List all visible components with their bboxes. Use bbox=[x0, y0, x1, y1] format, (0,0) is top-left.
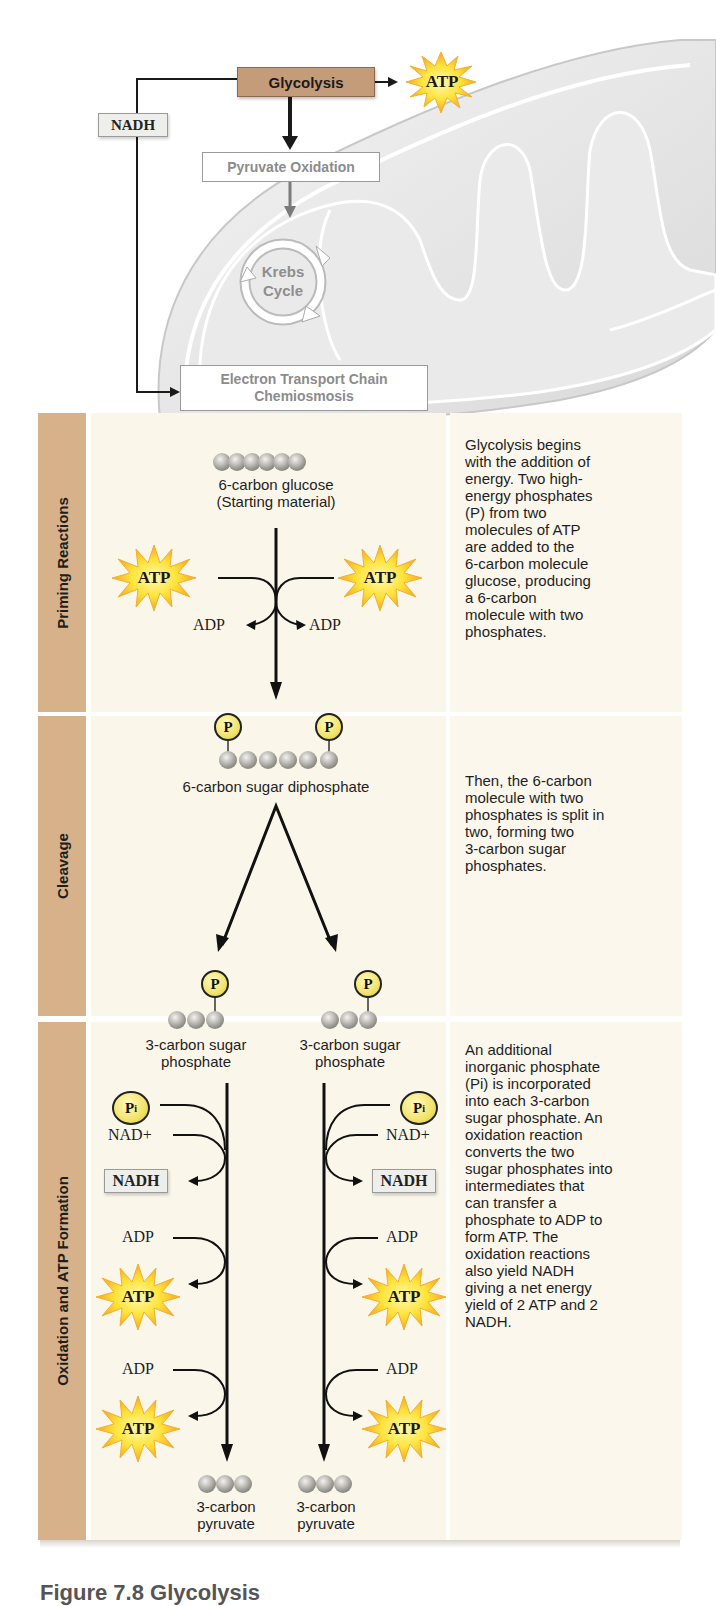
stage-stripe-priming: Priming Reactions bbox=[38, 413, 86, 712]
krebs-label-line1: Krebs bbox=[251, 262, 315, 281]
phosphate-icon: P bbox=[201, 970, 229, 998]
phosphate-icon: P bbox=[214, 713, 242, 741]
diphosphate-label: 6-carbon sugar diphosphate bbox=[140, 778, 412, 795]
krebs-label-line2: Cycle bbox=[251, 281, 315, 300]
label-line2: phosphate bbox=[282, 1053, 418, 1070]
pyruvate-label-left: 3-carbon pyruvate bbox=[180, 1498, 272, 1532]
description-line: phosphates is split in bbox=[465, 806, 680, 823]
description-line: oxidation reactions bbox=[465, 1245, 680, 1262]
description-line: can transfer a bbox=[465, 1194, 680, 1211]
adp-label-right-2: ADP bbox=[386, 1360, 418, 1378]
description-line: intermediates that bbox=[465, 1177, 680, 1194]
description-line: converts the two bbox=[465, 1143, 680, 1160]
adp-label-left: ADP bbox=[193, 616, 225, 634]
glycolysis-box: Glycolysis bbox=[237, 67, 375, 97]
nadh-box-left: NADH bbox=[104, 1169, 168, 1193]
sugar-phosphate-label-right: 3-carbon sugar phosphate bbox=[282, 1036, 418, 1070]
label-line1: 3-carbon sugar bbox=[282, 1036, 418, 1053]
description-line: energy phosphates bbox=[465, 487, 680, 504]
description-line: with the addition of bbox=[465, 453, 680, 470]
description-line: molecule with two bbox=[465, 789, 680, 806]
oxidation-description: An additional inorganic phosphate (Pi) i… bbox=[465, 1041, 680, 1330]
stage-stripe-oxidation: Oxidation and ATP Formation bbox=[38, 1022, 86, 1540]
priming-description: Glycolysis begins with the addition of e… bbox=[465, 436, 680, 640]
glucose-label: 6-carbon glucose (Starting material) bbox=[160, 476, 392, 510]
description-line: a 6-carbon bbox=[465, 589, 680, 606]
description-line: NADH. bbox=[465, 1313, 680, 1330]
phosphate-label: P bbox=[223, 719, 232, 736]
description-line: Glycolysis begins bbox=[465, 436, 680, 453]
stage-stripe-cleavage: Cleavage bbox=[38, 716, 86, 1016]
atp-burst-priming-right: ATP bbox=[338, 543, 422, 613]
pyruvate-oxidation-box: Pyruvate Oxidation bbox=[202, 152, 380, 182]
sugar-phosphate-label-left: 3-carbon sugar phosphate bbox=[128, 1036, 264, 1070]
cleavage-description: Then, the 6-carbon molecule with two pho… bbox=[465, 772, 680, 874]
label-line1: 3-carbon sugar bbox=[128, 1036, 264, 1053]
atp-label: ATP bbox=[338, 543, 422, 613]
description-line: (P) from two bbox=[465, 504, 680, 521]
description-line: An additional bbox=[465, 1041, 680, 1058]
description-line: also yield NADH bbox=[465, 1262, 680, 1279]
atp-burst-oxidation-right-1: ATP bbox=[362, 1262, 446, 1332]
glycolysis-label: Glycolysis bbox=[268, 74, 343, 91]
nadh-box-right: NADH bbox=[372, 1169, 436, 1193]
pi-label: P bbox=[125, 1100, 134, 1117]
adp-label-right-1: ADP bbox=[386, 1228, 418, 1246]
adp-label-left-2: ADP bbox=[122, 1360, 154, 1378]
description-line: phosphates. bbox=[465, 857, 680, 874]
pi-subscript: i bbox=[134, 1103, 137, 1114]
phosphate-icon: P bbox=[354, 970, 382, 998]
description-line: are added to the bbox=[465, 538, 680, 555]
phosphate-label: P bbox=[210, 976, 219, 993]
inorganic-phosphate-icon: Pi bbox=[400, 1091, 438, 1125]
phosphate-label: P bbox=[324, 719, 333, 736]
description-line: molecule with two bbox=[465, 606, 680, 623]
phosphate-icon: P bbox=[315, 713, 343, 741]
description-line: glucose, producing bbox=[465, 572, 680, 589]
description-line: form ATP. The bbox=[465, 1228, 680, 1245]
label-line2: phosphate bbox=[128, 1053, 264, 1070]
pyruvate-oxidation-label: Pyruvate Oxidation bbox=[227, 159, 355, 175]
nadh-label-top: NADH bbox=[111, 117, 155, 134]
atp-burst-oxidation-left-1: ATP bbox=[96, 1262, 180, 1332]
adp-label-left-1: ADP bbox=[122, 1228, 154, 1246]
description-line: oxidation reaction bbox=[465, 1126, 680, 1143]
description-line: giving a net energy bbox=[465, 1279, 680, 1296]
glucose-label-line2: (Starting material) bbox=[160, 493, 392, 510]
atp-burst-oxidation-left-2: ATP bbox=[96, 1394, 180, 1464]
nad-plus-label-left: NAD+ bbox=[108, 1126, 152, 1144]
inorganic-phosphate-icon: Pi bbox=[112, 1091, 150, 1125]
figure-caption: Figure 7.8 Glycolysis bbox=[40, 1580, 260, 1606]
krebs-cycle-label: Krebs Cycle bbox=[251, 262, 315, 300]
description-line: 6-carbon molecule bbox=[465, 555, 680, 572]
stage-title-oxidation: Oxidation and ATP Formation bbox=[54, 1176, 71, 1386]
cleavage-diagram-area bbox=[91, 716, 446, 1016]
nadh-box-top: NADH bbox=[98, 113, 168, 137]
pyruvate-label-right: 3-carbon pyruvate bbox=[280, 1498, 372, 1532]
panel-shadow bbox=[40, 1540, 680, 1548]
atp-label: ATP bbox=[362, 1394, 446, 1464]
description-line: phosphate to ADP to bbox=[465, 1211, 680, 1228]
description-line: into each 3-carbon bbox=[465, 1092, 680, 1109]
description-line: 3-carbon sugar bbox=[465, 840, 680, 857]
nadh-label: NADH bbox=[112, 1172, 159, 1190]
stage-title-priming: Priming Reactions bbox=[54, 497, 71, 629]
phosphate-label: P bbox=[363, 976, 372, 993]
description-line: sugar phosphates into bbox=[465, 1160, 680, 1177]
nad-plus-label-right: NAD+ bbox=[386, 1126, 430, 1144]
atp-label: ATP bbox=[362, 1262, 446, 1332]
label-line2: pyruvate bbox=[280, 1515, 372, 1532]
label-line1: 3-carbon bbox=[280, 1498, 372, 1515]
description-line: two, forming two bbox=[465, 823, 680, 840]
pi-label: P bbox=[413, 1100, 422, 1117]
atp-label: ATP bbox=[112, 543, 196, 613]
description-line: yield of 2 ATP and 2 bbox=[465, 1296, 680, 1313]
electron-transport-chain-box: Electron Transport Chain Chemiosmosis bbox=[180, 365, 428, 411]
description-line: sugar phosphate. An bbox=[465, 1109, 680, 1126]
label-line1: 3-carbon bbox=[180, 1498, 272, 1515]
nadh-label: NADH bbox=[380, 1172, 427, 1190]
etc-label-line1: Electron Transport Chain bbox=[220, 371, 387, 388]
etc-label-line2: Chemiosmosis bbox=[254, 388, 354, 405]
pi-subscript: i bbox=[422, 1103, 425, 1114]
glucose-label-line1: 6-carbon glucose bbox=[160, 476, 392, 493]
